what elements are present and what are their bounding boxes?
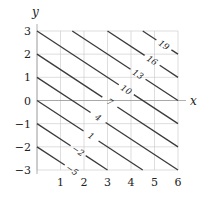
x-tick-label: 5 [151, 176, 158, 189]
contour-label: −5 [64, 162, 80, 177]
contour-line-level-1 [99, 141, 143, 170]
x-tick-label: 4 [128, 176, 135, 189]
contour-line-level-16 [108, 31, 145, 55]
y-tick-label: 3 [24, 25, 31, 38]
contour-line-level-7 [37, 54, 102, 97]
x-tick-label: 1 [57, 176, 64, 189]
contour-line-level-4 [106, 122, 178, 170]
contour-line-level--2 [37, 124, 71, 146]
x-tick-label: 2 [81, 176, 88, 189]
contour-label: 13 [131, 67, 146, 81]
contour-label: 7 [105, 96, 116, 108]
y-tick-label: 1 [24, 71, 31, 84]
contour-line-level-13 [146, 79, 178, 100]
contour-line-level-19 [171, 50, 178, 54]
y-tick-label: −3 [15, 164, 31, 177]
contour-line-level-4 [37, 77, 91, 112]
contour-label: 4 [92, 111, 103, 123]
contour-label: 10 [119, 83, 134, 98]
contour-label: 16 [145, 53, 160, 68]
x-tick-label: 6 [175, 176, 182, 189]
y-tick-label: −1 [15, 118, 31, 131]
contour-line-level-16 [160, 65, 178, 77]
x-tick-label: 3 [104, 176, 111, 189]
contour-line-level-7 [117, 107, 178, 147]
contour-label: 1 [86, 130, 96, 141]
contour-line-level-10 [37, 31, 119, 85]
contour-label: 19 [157, 38, 172, 53]
x-axis-label: x [190, 94, 197, 108]
contour-line-level-10 [134, 95, 178, 124]
contour-line-level-13 [72, 31, 130, 69]
y-tick-label: 2 [24, 48, 31, 61]
y-tick-label: 0 [24, 95, 31, 108]
contour-line-level--2 [86, 156, 108, 170]
y-tick-label: −2 [15, 141, 31, 154]
y-axis-label: y [31, 5, 39, 19]
contour-chart: x y 123456−3−2−10123 −5−214710131619 [0, 0, 213, 199]
